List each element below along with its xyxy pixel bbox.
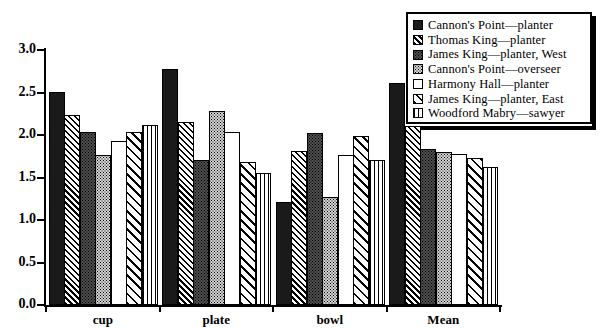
legend-item[interactable]: James King—planter, East	[413, 91, 586, 106]
bar	[255, 173, 271, 305]
bar	[291, 151, 307, 305]
bar	[240, 162, 256, 305]
legend-item[interactable]: Cannon's Point—planter	[413, 18, 586, 33]
legend-swatch-icon	[413, 20, 423, 30]
y-tick-label: 2.0	[4, 127, 36, 141]
y-tick-mark	[37, 134, 46, 136]
bar	[193, 160, 209, 305]
bar	[95, 155, 111, 305]
x-axis-label-mean: Mean	[387, 312, 501, 328]
legend-shadow-right	[592, 16, 596, 130]
x-axis-label-cup: cup	[46, 312, 160, 328]
bar	[467, 158, 483, 305]
x-axis-label-bowl: bowl	[273, 312, 387, 328]
legend-item-label: Cannon's Point—overseer	[428, 63, 561, 76]
y-tick-mark	[37, 262, 46, 264]
bar	[420, 149, 436, 305]
bar	[436, 152, 452, 305]
y-tick-label: 1.5	[4, 170, 36, 184]
bar	[482, 167, 498, 305]
legend: Cannon's Point—planterThomas King—plante…	[406, 12, 592, 124]
bar	[111, 141, 127, 305]
bar	[307, 133, 323, 305]
y-tick-label-wrap: 0.5	[0, 255, 36, 269]
y-tick-label-wrap: 2.5	[0, 85, 36, 99]
bar	[405, 126, 421, 305]
legend-item-label: Thomas King—planter	[428, 34, 546, 47]
x-tick-mark	[272, 305, 274, 312]
legend-item-label: James King—planter, West	[428, 48, 566, 61]
legend-item-label: Harmony Hall—planter	[428, 78, 549, 91]
x-axis-label-plate: plate	[160, 312, 274, 328]
legend-swatch-icon	[413, 35, 423, 45]
x-tick-mark	[499, 305, 501, 312]
legend-swatch-icon	[413, 79, 423, 89]
bar	[369, 160, 385, 305]
legend-swatch-icon	[413, 50, 423, 60]
bar	[353, 136, 369, 305]
y-tick-label: 2.5	[4, 85, 36, 99]
legend-swatch-icon	[413, 108, 423, 118]
bar	[64, 115, 80, 305]
y-tick-label: 0.5	[4, 255, 36, 269]
y-tick-label-wrap: 1.5	[0, 170, 36, 184]
legend-item[interactable]: Harmony Hall—planter	[413, 77, 586, 92]
y-tick-mark	[37, 49, 46, 51]
bar	[451, 154, 467, 305]
bar	[49, 92, 65, 305]
y-tick-label: 0.0	[4, 297, 36, 311]
bar	[338, 155, 354, 305]
y-tick-label-wrap: 1.0	[0, 212, 36, 226]
y-tick-mark	[37, 177, 46, 179]
y-tick-label-wrap: 2.0	[0, 127, 36, 141]
bar	[322, 197, 338, 305]
bar	[209, 111, 225, 305]
legend-item[interactable]: Woodford Mabry—sawyer	[413, 106, 586, 121]
legend-item[interactable]: Cannon's Point—overseer	[413, 62, 586, 77]
bar	[178, 122, 194, 305]
y-tick-label-wrap: 3.0	[0, 42, 36, 56]
x-tick-mark	[159, 305, 161, 312]
legend-swatch-icon	[413, 64, 423, 74]
bar	[162, 69, 178, 305]
y-tick-label-wrap: 0.0	[0, 297, 36, 311]
x-tick-mark	[45, 305, 47, 312]
y-tick-mark	[37, 92, 46, 94]
y-tick-mark	[37, 219, 46, 221]
legend-shadow-bottom	[410, 126, 596, 130]
bar	[389, 83, 405, 305]
bar	[224, 132, 240, 305]
y-tick-label: 1.0	[4, 212, 36, 226]
bar	[276, 202, 292, 305]
legend-item[interactable]: Thomas King—planter	[413, 33, 586, 48]
y-tick-label: 3.0	[4, 42, 36, 56]
bar-chart: 0.00.51.01.52.02.53.0 cupplatebowlMean C…	[0, 0, 601, 328]
legend-item[interactable]: James King—planter, West	[413, 47, 586, 62]
legend-item-label: Woodford Mabry—sawyer	[428, 107, 565, 120]
legend-swatch-icon	[413, 94, 423, 104]
legend-item-label: James King—planter, East	[428, 93, 564, 106]
legend-item-label: Cannon's Point—planter	[428, 19, 553, 32]
bar	[126, 132, 142, 305]
bar	[80, 132, 96, 305]
x-tick-mark	[386, 305, 388, 312]
bar	[142, 125, 158, 305]
